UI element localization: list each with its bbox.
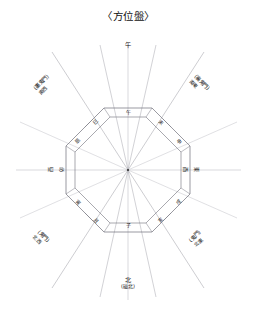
ray-upper-right [128,52,204,170]
cardinal-south-main: 午 [118,41,138,48]
ray-lower-right [128,170,204,288]
diagram-stage: 午 北 (磁北) 午 子 酉 東 卯 西 未 申 戌 亥 丑 寅 辰 巳 (裏鬼… [0,0,257,334]
ray-upper-left [52,52,128,170]
ring-char-ne: 子 [126,223,131,228]
spoke-n-left [100,45,128,170]
cardinal-north-main: 北 [108,276,148,283]
ring-char-tori: 酉 [183,167,188,172]
ray-right-up [128,122,237,170]
divider-4 [181,188,190,194]
divider-7 [66,188,75,194]
ray-right-down [128,170,237,218]
spoke-n-right [128,45,156,170]
ring-char-uma: 午 [126,110,131,115]
direction-board-diagram: 〈方位盤〉 [0,0,257,334]
cardinal-north: 北 (磁北) [108,276,148,289]
ring-char-nishi: 西 [48,167,53,172]
divider-6 [104,223,110,232]
ray-left-down [20,170,128,218]
divider-8 [66,146,75,152]
ring-char-higashi: 東 [194,167,199,172]
ring-char-u: 卯 [59,167,64,172]
divider-1 [104,108,110,117]
ray-left-up [20,122,128,170]
divider-3 [181,146,190,152]
split-ne [163,119,171,127]
cardinal-north-paren: (磁北) [108,283,148,289]
center-point [127,169,129,171]
ray-lower-left [52,170,128,288]
cardinal-south: 午 [118,41,138,48]
divider-2 [146,108,152,117]
divider-5 [146,223,152,232]
